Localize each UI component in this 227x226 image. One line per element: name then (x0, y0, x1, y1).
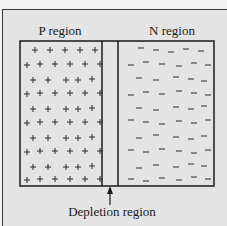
pn-junction-drawing (0, 0, 227, 226)
depletion-region-label: Depletion region (68, 204, 156, 220)
n-region-charges (128, 48, 211, 181)
arrow-up-icon (107, 186, 113, 194)
p-region-charges (24, 47, 103, 183)
junction-box (20, 41, 214, 186)
